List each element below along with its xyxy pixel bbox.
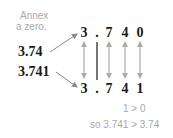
double-arrow-thousandths: [137, 41, 143, 79]
arrows-layer: [0, 0, 173, 138]
double-arrow-ones: [81, 41, 87, 79]
double-arrow-hundredths: [122, 41, 128, 79]
pointer-arrow-to-bottom: [56, 72, 77, 87]
pointer-arrow-to-top: [50, 34, 77, 52]
digit-comparison: 1 > 0: [123, 103, 146, 114]
conclusion-text: so 3.741 > 3.74: [90, 119, 159, 130]
double-arrow-tenths: [106, 41, 112, 79]
